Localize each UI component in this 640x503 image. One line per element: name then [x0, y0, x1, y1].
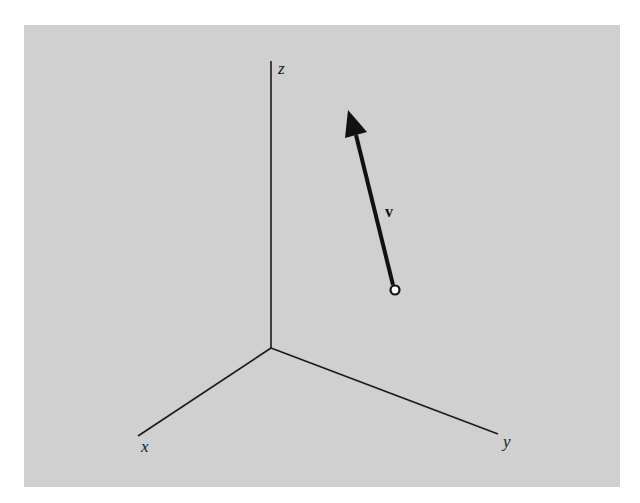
y-axis [271, 348, 498, 434]
x-axis [138, 348, 271, 436]
vector-diagram: z x y v [0, 0, 640, 503]
z-axis-label: z [277, 59, 285, 78]
vector-v-arrowhead [345, 110, 367, 138]
y-axis-label: y [501, 432, 511, 451]
vector-v-tail-circle [391, 286, 400, 295]
figure-canvas: z x y v [0, 0, 640, 503]
x-axis-label: x [140, 437, 149, 456]
vector-v-label: v [385, 203, 393, 220]
